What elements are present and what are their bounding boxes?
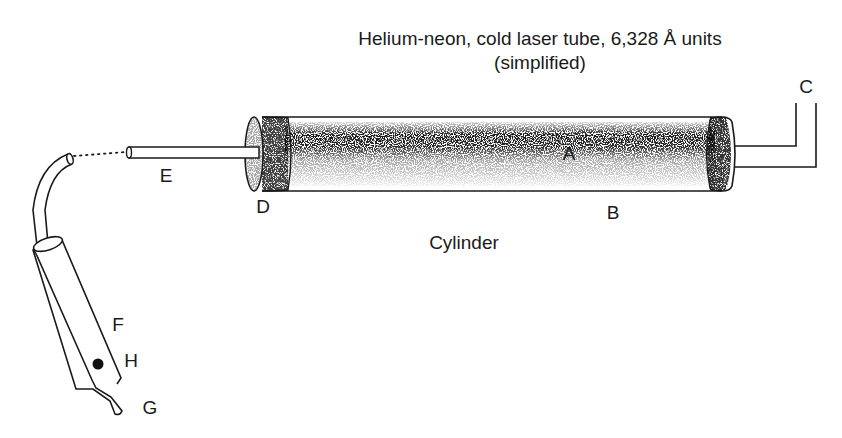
label-h: H — [124, 350, 138, 371]
wire-leads — [734, 103, 816, 167]
label-b: B — [607, 202, 620, 223]
indicator-dot — [93, 359, 104, 370]
right-end-cap — [707, 117, 736, 191]
diagram-title-line1: Helium-neon, cold laser tube, 6,328 Å un… — [358, 28, 721, 49]
label-a: A — [563, 143, 576, 164]
diagram-title-line2: (simplified) — [494, 52, 586, 73]
label-c: C — [799, 76, 813, 97]
label-cylinder: Cylinder — [429, 232, 499, 253]
probe-handle — [32, 234, 122, 415]
laser-tube-diagram: Helium-neon, cold laser tube, 6,328 Å un… — [0, 0, 842, 438]
laser-beam-dotted-line — [74, 152, 126, 156]
curved-hose — [33, 153, 74, 246]
output-rod — [127, 147, 260, 158]
label-f: F — [112, 314, 124, 335]
cylinder-body — [262, 117, 722, 191]
label-d: D — [256, 196, 270, 217]
gas-discharge-stipple — [285, 122, 715, 186]
label-e: E — [160, 165, 173, 186]
label-g: G — [143, 397, 158, 418]
